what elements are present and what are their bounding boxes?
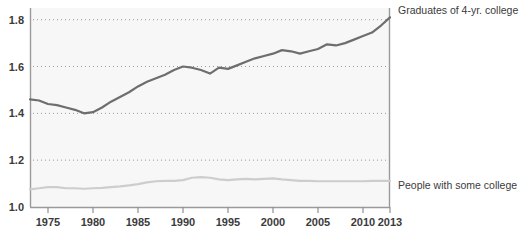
x-tick-label: 2005: [306, 216, 330, 228]
series-label-people-with-some-college: People with some college: [398, 179, 517, 191]
x-tick-label: 1990: [171, 216, 195, 228]
y-tick-label: 1.6: [9, 61, 24, 73]
y-tick-labels-group: 1.01.21.41.61.8: [9, 14, 25, 213]
x-tick-label: 1975: [36, 216, 60, 228]
x-tick-label: 2010: [351, 216, 375, 228]
y-tick-label: 1.0: [9, 201, 24, 213]
x-tick-label: 2000: [261, 216, 285, 228]
x-tick-label: 2013: [378, 216, 402, 228]
x-tick-label: 1985: [126, 216, 150, 228]
chart-container: 1.01.21.41.61.8 197519801985199019952000…: [0, 0, 525, 233]
y-tick-label: 1.2: [9, 154, 24, 166]
y-tick-label: 1.8: [9, 14, 24, 26]
y-tick-label: 1.4: [9, 107, 25, 119]
x-tick-label: 1980: [81, 216, 105, 228]
x-tick-labels-group: 197519801985199019952000200520102013: [36, 216, 402, 228]
x-tick-label: 1995: [216, 216, 240, 228]
line-chart: 1.01.21.41.61.8 197519801985199019952000…: [0, 0, 525, 233]
series-label-graduates-4yr-college: Graduates of 4-yr. college: [398, 4, 518, 16]
